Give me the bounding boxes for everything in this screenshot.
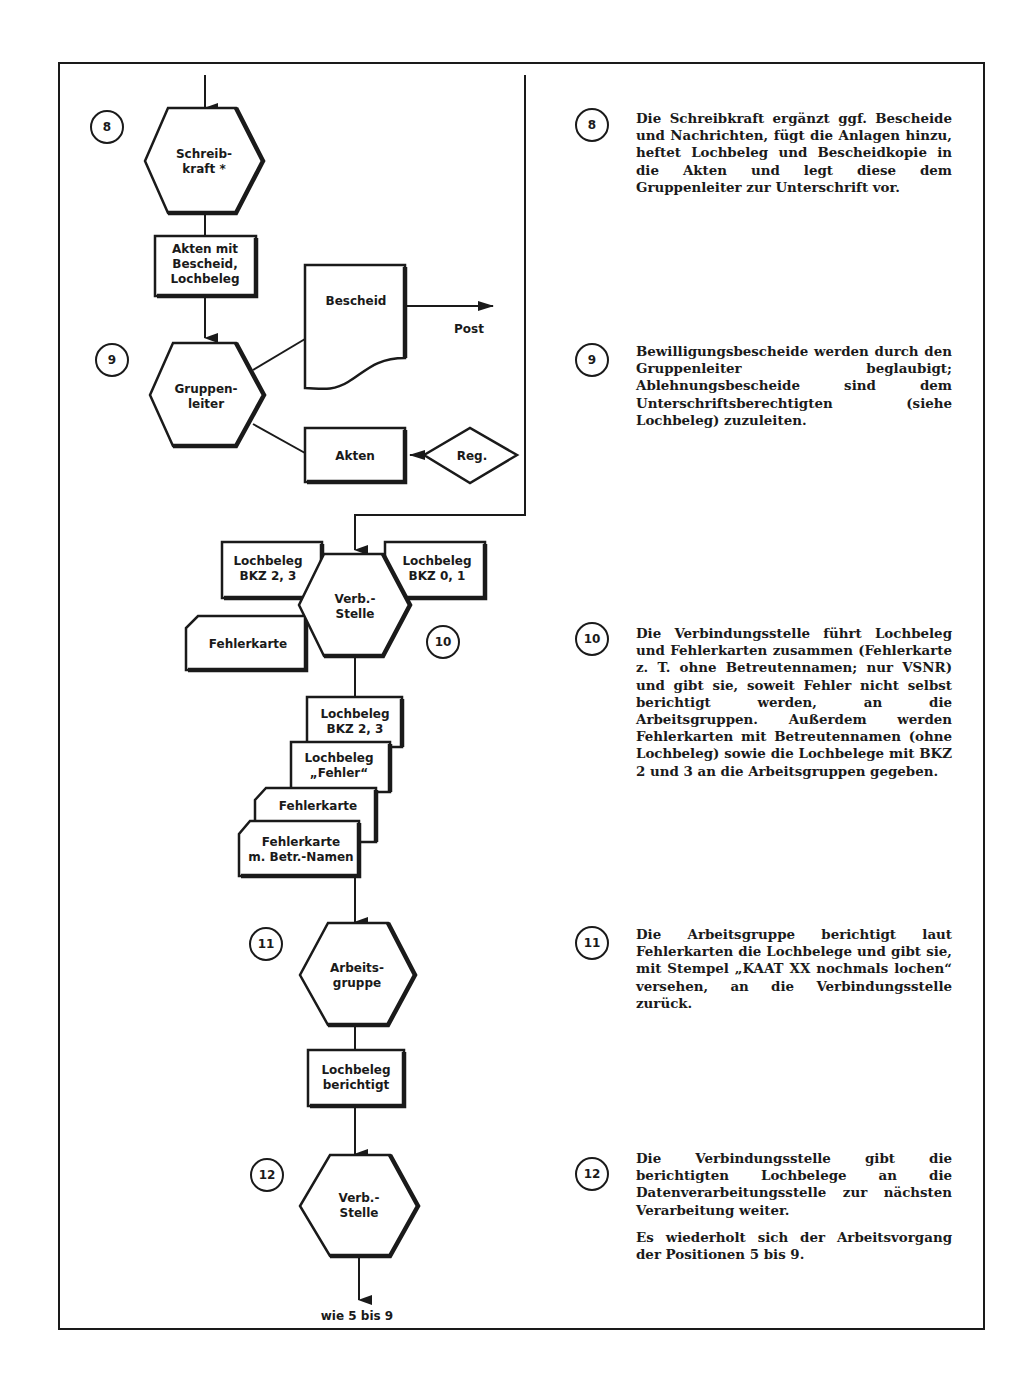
description-paragraph: Es wiederholt sich der Arbeitsvorgang de… [636,1229,952,1263]
description-11: Die Arbeitsgruppe berichtigt laut Fehler… [636,926,952,1022]
stack-card-fehlerkarte-namen: Fehlerkarte m. Betr.-Namen [239,821,359,876]
svg-text:BKZ 2, 3: BKZ 2, 3 [327,722,384,736]
svg-text:Fehlerkarte: Fehlerkarte [262,835,340,849]
description-badge: 10 [575,622,609,656]
box-lochbeleg-berichtigt: Lochbeleg berichtigt [308,1050,404,1106]
diamond-registratur: Reg. [424,428,517,483]
end-label: wie 5 bis 9 [321,1309,393,1323]
post-label: Post [454,322,484,336]
svg-text:Bescheid: Bescheid [326,294,387,308]
description-paragraph: Bewilligungsbescheide werden durch den G… [636,343,952,429]
svg-text:Fehlerkarte: Fehlerkarte [279,799,357,813]
svg-text:m. Betr.-Namen: m. Betr.-Namen [248,850,353,864]
description-8: Die Schreibkraft ergänzt ggf. Bescheide … [636,110,952,206]
svg-text:Lochbeleg: Lochbeleg [320,707,389,721]
description-paragraph: Die Schreibkraft ergänzt ggf. Bescheide … [636,110,952,196]
step-badge: 9 [95,343,129,377]
svg-text:Stelle: Stelle [336,607,375,621]
hexagon-verbindungsstelle-10: Verb.- Stelle [299,554,410,656]
svg-text:Bescheid,: Bescheid, [172,257,237,271]
hexagon-schreibkraft: Schreib- kraft * [145,108,263,213]
svg-text:Lochbeleg: Lochbeleg [402,554,471,568]
stack-card-lochbeleg-bkz-2-3: Lochbeleg BKZ 2, 3 [307,697,402,747]
step-badge: 11 [249,927,283,961]
description-paragraph: Die Verbindungsstelle führt Lochbeleg un… [636,625,952,780]
svg-text:Reg.: Reg. [457,449,488,463]
svg-text:Verb.-: Verb.- [335,592,376,606]
box-akten: Akten [305,428,405,482]
description-paragraph: Die Verbindungsstelle gibt die berichtig… [636,1150,952,1219]
svg-text:Akten: Akten [335,449,375,463]
svg-text:Lochbeleg: Lochbeleg [304,751,373,765]
description-10: Die Verbindungsstelle führt Lochbeleg un… [636,625,952,790]
description-12: Die Verbindungsstelle gibt die berichtig… [636,1150,952,1273]
box-akten-mit-bescheid: Akten mit Bescheid, Lochbeleg [155,236,256,296]
svg-text:Lochbeleg: Lochbeleg [170,272,239,286]
step-badge: 10 [426,625,460,659]
svg-text:Akten mit: Akten mit [172,242,238,256]
actor-label: kraft * [182,162,226,176]
actor-label: Schreib- [176,147,232,161]
document-bescheid: Bescheid [305,265,405,389]
svg-text:Arbeits-: Arbeits- [330,961,384,975]
svg-text:Lochbeleg: Lochbeleg [321,1063,390,1077]
step-badge: 8 [90,110,124,144]
svg-text:berichtigt: berichtigt [323,1078,390,1092]
svg-text:BKZ 2, 3: BKZ 2, 3 [240,569,297,583]
card-stack: Lochbeleg BKZ 2, 3 Lochbeleg „Fehler“ Fe… [239,697,402,876]
svg-text:Lochbeleg: Lochbeleg [233,554,302,568]
hexagon-gruppenleiter: Gruppen- leiter [150,343,264,446]
svg-text:„Fehler“: „Fehler“ [310,766,368,780]
description-paragraph: Die Arbeitsgruppe berichtigt laut Fehler… [636,926,952,1012]
svg-text:gruppe: gruppe [333,976,381,990]
svg-text:Verb.-: Verb.- [339,1191,380,1205]
description-badge: 12 [575,1157,609,1191]
stack-card-lochbeleg-fehler: Lochbeleg „Fehler“ [291,742,390,792]
svg-text:leiter: leiter [188,397,224,411]
svg-text:Gruppen-: Gruppen- [174,382,237,396]
card-fehlerkarte: Fehlerkarte [186,616,306,670]
hexagon-verbindungsstelle-12: Verb.- Stelle [300,1155,418,1256]
step-badge: 12 [250,1158,284,1192]
description-badge: 8 [575,108,609,142]
svg-text:Stelle: Stelle [340,1206,379,1220]
hexagon-arbeitsgruppe: Arbeits- gruppe [300,923,415,1025]
description-badge: 11 [575,926,609,960]
description-badge: 9 [575,343,609,377]
svg-text:Fehlerkarte: Fehlerkarte [209,637,287,651]
svg-text:BKZ 0, 1: BKZ 0, 1 [409,569,466,583]
description-9: Bewilligungsbescheide werden durch den G… [636,343,952,439]
